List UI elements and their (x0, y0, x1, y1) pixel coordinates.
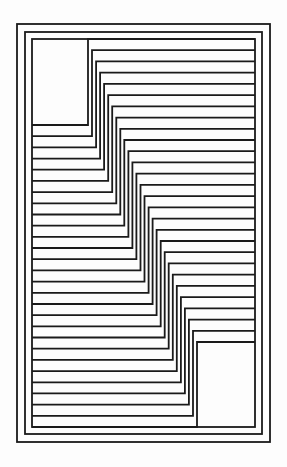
frame-3 (32, 39, 255, 427)
frame-2 (25, 32, 262, 434)
step-line (32, 230, 255, 315)
step-line (32, 118, 255, 204)
step-line (32, 297, 255, 382)
step-line (32, 263, 255, 348)
step-line (32, 196, 255, 282)
step-line (32, 308, 255, 393)
frame-1 (17, 24, 270, 442)
step-lines-group (32, 39, 255, 427)
step-line (32, 342, 255, 427)
step-line (32, 207, 255, 292)
step-line (32, 331, 255, 416)
step-line (32, 140, 255, 226)
step-line (32, 275, 255, 360)
step-line (32, 241, 255, 326)
step-line (32, 320, 255, 405)
step-line (32, 73, 255, 159)
frame-group (17, 24, 270, 442)
step-line (32, 252, 255, 337)
step-line (32, 95, 255, 181)
step-line (32, 286, 255, 371)
step-line (32, 219, 255, 304)
step-line (32, 61, 255, 147)
step-line (32, 84, 255, 170)
step-line (32, 129, 255, 215)
step-line (32, 162, 255, 248)
step-line (32, 50, 255, 136)
step-line (32, 174, 255, 260)
step-line (32, 151, 255, 237)
step-line (32, 106, 255, 192)
step-line (32, 39, 255, 125)
step-line (32, 185, 255, 271)
stepped-line-diagram (0, 0, 287, 467)
